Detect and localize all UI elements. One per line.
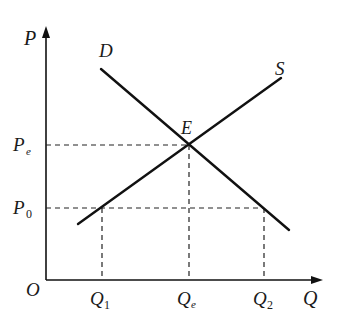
y-axis-label: P [23, 27, 36, 49]
svg-text:Q: Q [253, 288, 267, 309]
price-label-pe: P e [12, 134, 31, 157]
supply-demand-diagram: D S E P Q O P e P 0 Q 1 Q e Q 2 [0, 0, 342, 335]
svg-text:P: P [12, 197, 25, 218]
svg-text:e: e [191, 298, 196, 310]
x-axis-arrow-icon [311, 276, 323, 284]
svg-text:0: 0 [26, 207, 32, 221]
supply-label: S [275, 58, 285, 79]
svg-text:2: 2 [267, 298, 273, 312]
y-axis-arrow-icon [42, 26, 50, 38]
svg-text:Q: Q [177, 288, 191, 309]
svg-text:P: P [12, 134, 25, 155]
guide-lines [46, 145, 264, 280]
equilibrium-label: E [180, 118, 192, 138]
quantity-label-q1: Q 1 [90, 288, 110, 312]
svg-text:e: e [26, 145, 31, 157]
price-label-p0: P 0 [12, 197, 32, 221]
svg-text:1: 1 [104, 298, 110, 312]
quantity-label-q2: Q 2 [253, 288, 273, 312]
origin-label: O [26, 279, 40, 300]
x-axis-label: Q [303, 287, 318, 309]
quantity-label-qe: Q e [177, 288, 196, 310]
supply-curve [78, 78, 281, 224]
svg-text:Q: Q [90, 288, 104, 309]
demand-label: D [98, 40, 113, 61]
